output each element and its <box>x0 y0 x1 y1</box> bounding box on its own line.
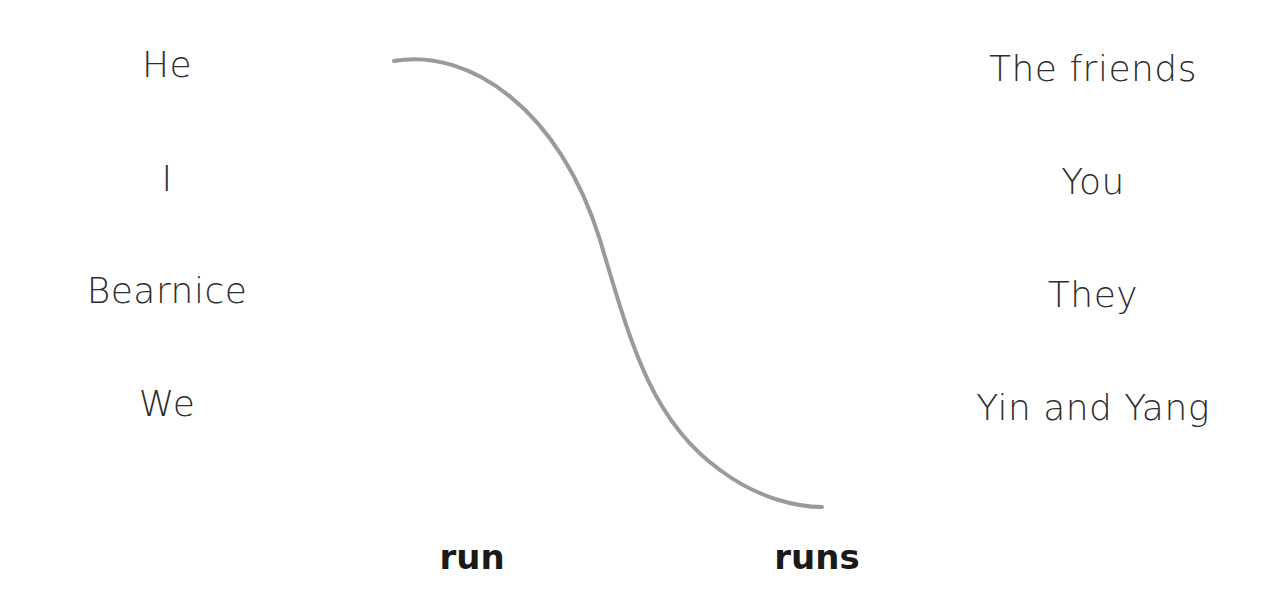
left-subject-bearnice[interactable]: Bearnice <box>87 273 248 309</box>
right-subject-the-friends[interactable]: The friends <box>989 51 1197 87</box>
verb-run[interactable]: run <box>439 540 504 574</box>
right-subject-you[interactable]: You <box>1061 164 1125 200</box>
verb-runs[interactable]: runs <box>774 540 859 574</box>
left-subject-he[interactable]: He <box>142 47 192 83</box>
right-subject-they[interactable]: They <box>1048 277 1138 313</box>
connector-he-to-runs <box>394 59 822 507</box>
left-subject-i[interactable]: I <box>161 161 172 197</box>
left-subject-we[interactable]: We <box>139 386 196 422</box>
right-subject-yin-and-yang[interactable]: Yin and Yang <box>976 390 1210 426</box>
